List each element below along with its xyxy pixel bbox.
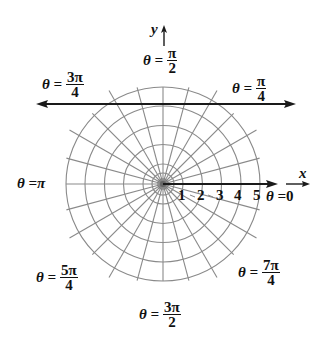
numerator: π: [167, 46, 177, 61]
numerator: π: [256, 74, 266, 89]
x-axis-label: x: [299, 165, 307, 182]
numerator: 3π: [163, 300, 181, 315]
radial-spoke: [66, 158, 163, 184]
radial-spoke: [163, 113, 234, 184]
angle-label-prefix: θ =: [143, 52, 163, 69]
angle-label-prefix: θ =: [139, 306, 159, 323]
angle-label-5pi-over-4: θ = 5π 4: [36, 263, 78, 292]
numerator: 7π: [262, 258, 280, 273]
radial-spoke: [66, 184, 163, 210]
fraction: 3π 4: [66, 70, 84, 99]
numerator: 3π: [66, 70, 84, 85]
radial-spoke: [163, 158, 260, 184]
radial-spoke: [137, 87, 163, 184]
angle-label-prefix: θ =: [238, 264, 258, 281]
angle-label-0: θ = 0: [266, 188, 294, 205]
radial-spoke: [163, 87, 189, 184]
radial-spoke: [109, 184, 163, 278]
radial-spoke: [70, 184, 164, 238]
angle-label-prefix: θ =: [232, 80, 252, 97]
y-axis-arrow: [161, 25, 167, 46]
denominator: 2: [168, 61, 176, 75]
radial-spoke: [70, 130, 164, 184]
angle-label-value: π: [37, 175, 45, 192]
radial-spoke: [137, 184, 163, 281]
radial-tick-1: 1: [178, 187, 186, 204]
fraction: 5π 4: [60, 263, 78, 292]
angle-label-3pi-over-2: θ = 3π 2: [139, 300, 181, 329]
angle-label-7pi-over-4: θ = 7π 4: [238, 258, 280, 287]
radial-spoke: [92, 184, 163, 255]
denominator: 2: [168, 315, 176, 329]
angle-label-pi: θ = π: [17, 175, 45, 192]
angle-label-3pi-over-4: θ = 3π 4: [42, 70, 84, 99]
angle-label-prefix: θ =: [42, 76, 62, 93]
angle-label-prefix: θ =: [17, 175, 37, 192]
radial-spoke: [92, 113, 163, 184]
fraction: 7π 4: [262, 258, 280, 287]
radial-spoke: [163, 130, 257, 184]
fraction: 3π 2: [163, 300, 181, 329]
angle-label-pi-over-2: θ = π 2: [143, 46, 177, 75]
angle-label-prefix: θ =: [36, 269, 56, 286]
fraction: π 4: [256, 74, 266, 103]
denominator: 4: [71, 85, 79, 99]
fraction: π 2: [167, 46, 177, 75]
denominator: 4: [65, 278, 73, 292]
radial-tick-3: 3: [216, 187, 224, 204]
radial-tick-2: 2: [197, 187, 205, 204]
angle-label-prefix: θ =: [266, 188, 286, 205]
y-axis-label: y: [151, 21, 158, 38]
angle-label-value: 0: [286, 188, 294, 205]
radial-spoke: [163, 184, 217, 278]
angle-label-pi-over-4: θ = π 4: [232, 74, 266, 103]
radial-tick-4: 4: [234, 187, 242, 204]
denominator: 4: [257, 89, 265, 103]
numerator: 5π: [60, 263, 78, 278]
denominator: 4: [267, 273, 275, 287]
radial-tick-5: 5: [253, 187, 261, 204]
